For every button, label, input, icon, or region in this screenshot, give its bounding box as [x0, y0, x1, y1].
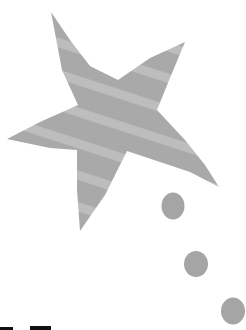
trail-dot-icon: [221, 298, 245, 325]
cropped-text-fragment: [30, 326, 51, 330]
trail-dot-icon: [184, 251, 208, 277]
star-illustration: [0, 0, 246, 330]
star-icon: [7, 12, 219, 231]
trail-dot-icon: [162, 193, 185, 220]
